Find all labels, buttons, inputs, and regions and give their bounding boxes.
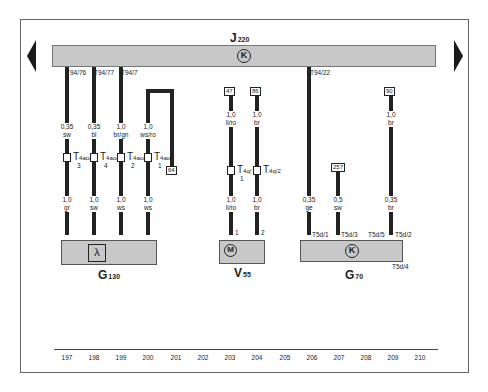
column-number: 197 [57,354,77,361]
wire-label: 1,0br [242,196,272,212]
pin-label: T5d/5 [368,231,385,238]
wire-label: 1,0ws [106,196,136,212]
wire-label: 1,0br [242,111,272,127]
column-number: 202 [193,354,213,361]
connector-pin: 3 [77,162,81,169]
connector-t4q: T4q/2 [253,165,281,176]
column-number: 200 [138,354,158,361]
connector-pin: 2 [131,162,135,169]
pin-label: T5d/2 [395,231,412,238]
prev-page-arrow-icon[interactable] [27,40,36,72]
wire-label: 1,0br [376,111,406,127]
terminal-257: 257 [331,163,345,172]
wire-label: 1,0sw [79,196,109,212]
column-number: 208 [356,354,376,361]
wire-label: 0,35bl [79,123,109,139]
wire-label: 1,0ws [133,196,163,212]
wire-label: 1,0gr [52,196,82,212]
component-g70-title: G70 [345,268,363,282]
next-page-arrow-icon[interactable] [454,40,463,72]
pin-label: T5d/1 [312,231,329,238]
pin-label: T5d/3 [341,231,358,238]
component-g130-title: G130 [98,268,120,282]
column-number: 207 [329,354,349,361]
footer-divider [54,349,438,350]
bus-pin-label: T94/76 [66,69,86,76]
wire-label: 1,0ws/ro [133,123,163,139]
wire-label: 0,5sw [323,196,353,212]
control-unit-k-icon: K [237,49,251,63]
column-number: 201 [166,354,186,361]
component-g130 [61,240,157,265]
bus-pin-label: T94/22 [310,69,330,76]
column-number: 206 [302,354,322,361]
wire-label: 0,35ge [294,196,324,212]
column-number: 203 [220,354,240,361]
terminal-90: 90 [384,87,395,96]
column-number: 198 [84,354,104,361]
wire-label: 0,35br [376,196,406,212]
connector-pin: 1 [158,162,162,169]
bus-pin-label: T94/7 [121,69,138,76]
column-number: 204 [247,354,267,361]
component-v55-title: V55 [234,266,251,280]
wire-label: 1,0br/gn [106,123,136,139]
wire-label: 0,35sw [52,123,82,139]
ground-pin-label: T5d/4 [392,263,409,270]
connector-pin: 4 [104,162,108,169]
terminal-86: 86 [250,87,261,96]
pin-label: 2 [261,229,265,236]
pin-label: 1 [235,229,239,236]
wire [146,92,150,235]
terminal-64: 64 [166,166,177,175]
bus-pin-label: T94/77 [94,69,114,76]
column-number: 210 [410,354,430,361]
motor-icon: M [224,244,237,257]
lambda-sensor-icon: λ [88,244,106,262]
column-number: 199 [111,354,131,361]
column-number: 209 [383,354,403,361]
control-unit-title: J220 [230,31,249,45]
column-number: 205 [275,354,295,361]
g70-k-icon: K [345,244,359,258]
terminal-47: 47 [224,87,235,96]
connector-pin: 1 [240,175,244,182]
